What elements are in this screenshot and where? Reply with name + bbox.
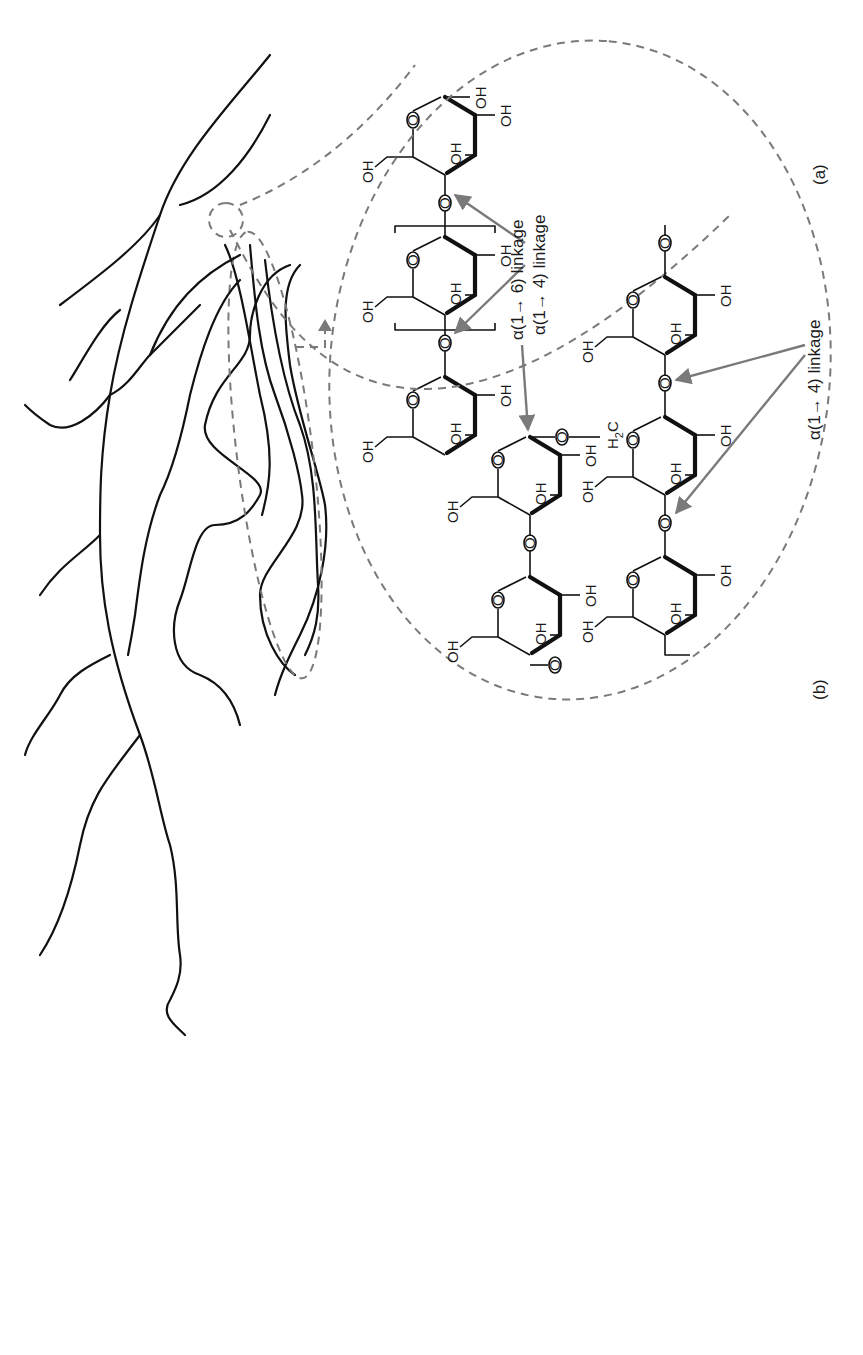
amylopectin-main-chain (100, 55, 270, 1035)
bridge-ch2: H2C (604, 421, 625, 449)
amylose-structure: O O OH (359, 87, 514, 464)
svg-text:O: O (656, 237, 673, 249)
svg-text:O: O (656, 517, 673, 529)
linkage-arrow-b1 (676, 345, 805, 380)
branch-9 (128, 280, 240, 655)
svg-text:O: O (546, 659, 563, 671)
callout-arrow-head (318, 319, 332, 331)
panel-label-a: (a) (810, 164, 829, 185)
branch-point-circle (209, 203, 243, 237)
amylose-highlight-ellipse (210, 227, 340, 683)
amylopectin-structure: O O O H2C O (444, 225, 734, 673)
branch-4 (25, 395, 110, 428)
amylose-chain-5 (265, 260, 318, 655)
linkage-label-b: α(1→ 4) linkage (805, 320, 824, 440)
branch-2 (40, 735, 140, 955)
linkage-arrow-alpha16 (522, 345, 528, 430)
linkage-label-alpha16: α(1→ 6) linkage (508, 220, 527, 340)
svg-text:OH: OH (472, 87, 489, 110)
branch-1 (40, 535, 100, 595)
svg-text:O: O (521, 537, 538, 549)
branch-5 (70, 310, 120, 380)
polysaccharide-figure: O OH OH OH (0, 0, 863, 1355)
svg-text:O: O (656, 377, 673, 389)
amylose-chain-1 (174, 265, 290, 725)
zoom-line-1 (230, 215, 730, 389)
branch-7 (150, 305, 200, 355)
svg-text:O: O (436, 197, 453, 209)
branch-6 (110, 255, 240, 395)
panel-label-b: (b) (810, 679, 829, 700)
svg-text:O: O (553, 431, 570, 443)
zoom-line-2 (240, 65, 415, 205)
amylopectin-zoom-ellipse (302, 19, 858, 720)
branch-10 (180, 115, 270, 205)
linkage-label-a: α(1→ 4) linkage (530, 215, 549, 335)
branch-8 (25, 655, 110, 755)
amylose-chain-3 (250, 245, 303, 675)
svg-text:O: O (436, 337, 453, 349)
panel-b: O O O H2C O (25, 19, 858, 1035)
panel-a: O O OH α(1→ 4) (174, 87, 829, 726)
